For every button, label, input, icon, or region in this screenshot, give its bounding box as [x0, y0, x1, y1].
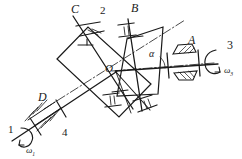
label-shaft-1: 1: [8, 124, 14, 135]
left-frame: [57, 27, 151, 117]
bearing-a-hatch-icon: [179, 46, 194, 79]
right-frame: [117, 27, 163, 96]
shaft-3: [116, 64, 218, 71]
label-shaft-2: 2: [100, 5, 106, 16]
bearing-a-shaft-stops: [167, 50, 200, 78]
center-point-o: [115, 70, 118, 73]
label-bearing-b: B: [131, 2, 138, 14]
bearing-b-icon: [118, 23, 136, 37]
bearing-b-hatch-icon: [124, 26, 129, 35]
label-bearing-c: C: [71, 3, 79, 15]
bearing-d-hatch-icon: [25, 100, 59, 131]
omega-3-subscript: 3: [230, 71, 233, 77]
label-center-o: O: [105, 63, 113, 74]
bearing-a-icon: [173, 44, 197, 80]
rotation-arrow-right-icon: [205, 50, 220, 74]
label-shaft-4: 4: [62, 127, 68, 138]
label-shaft-3: 3: [227, 39, 233, 51]
label-angle-alpha: α: [149, 49, 154, 59]
label-omega-1: ω1: [26, 146, 35, 157]
centerline-inclined: [44, 20, 185, 109]
diagram-linework: [0, 0, 242, 159]
bearing-b-lower-stub: [112, 90, 128, 92]
diagram-canvas: C 2 B A 3 ω3 O α D 4 1 ω1: [0, 0, 242, 159]
label-bearing-a: A: [188, 34, 195, 46]
label-bearing-d: D: [38, 91, 47, 103]
omega-1-subscript: 1: [32, 151, 35, 157]
bearing-b-lower-hatch-icon: [110, 96, 115, 105]
label-omega-3: ω3: [224, 66, 233, 77]
